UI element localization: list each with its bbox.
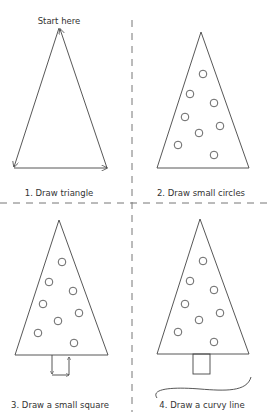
tree-triangle	[157, 32, 249, 168]
step-1-label: 1. Draw triangle	[25, 188, 94, 198]
ornament-circles	[174, 70, 224, 159]
panel-step-4: 4. Draw a curvy line	[156, 219, 251, 410]
panel-step-2: 2. Draw small circles	[157, 32, 249, 198]
step-2-label: 2. Draw small circles	[157, 188, 246, 198]
trunk-square-arrows	[52, 355, 69, 375]
ornament-circles	[174, 257, 224, 346]
triangle-right-arrow	[60, 29, 107, 168]
tree-triangle	[157, 219, 249, 354]
triangle-left-arrow	[14, 28, 59, 167]
ornament-circles	[34, 258, 83, 347]
drawing-tutorial-canvas: Start here 1. Draw triangle 2. Draw smal…	[0, 0, 270, 417]
panel-step-1: Start here 1. Draw triangle	[14, 16, 107, 198]
start-here-label: Start here	[38, 16, 81, 26]
curvy-ground-line	[156, 377, 251, 398]
panel-step-3: 3. Draw a small square	[11, 220, 109, 410]
step-3-label: 3. Draw a small square	[11, 400, 109, 410]
step-4-label: 4. Draw a curvy line	[159, 400, 244, 410]
tree-triangle	[15, 220, 108, 355]
tree-trunk	[193, 354, 210, 374]
